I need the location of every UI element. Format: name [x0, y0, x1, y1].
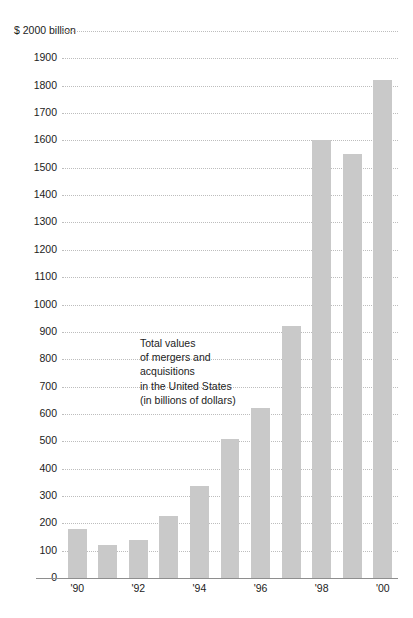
plot-area	[62, 31, 398, 578]
y-axis-tick-label: 700	[39, 381, 57, 392]
bar	[251, 408, 270, 578]
bar	[343, 154, 362, 578]
bar	[190, 486, 209, 578]
x-axis-tick-label: '00	[376, 582, 390, 594]
annotation-line: Total values	[140, 336, 236, 350]
y-axis-tick-label: 1400	[34, 189, 57, 200]
x-axis-line	[36, 578, 398, 579]
y-axis-tick-label: 1100	[34, 271, 57, 282]
annotation-line: in the United States	[140, 379, 236, 393]
bar	[98, 545, 117, 578]
bar	[159, 516, 178, 578]
y-axis-tick-label: 1900	[34, 52, 57, 63]
annotation-line: acquisitions	[140, 364, 236, 378]
bar	[221, 439, 240, 578]
chart-annotation: Total valuesof mergers andacquisitionsin…	[140, 336, 236, 407]
y-axis-tick-label: 300	[39, 490, 57, 501]
bar	[129, 540, 148, 578]
y-axis-tick-label: 1300	[34, 216, 57, 227]
x-axis-tick-label: '98	[315, 582, 329, 594]
y-axis-tick-label: 1700	[34, 107, 57, 118]
y-axis-labels: 0100200300400500600700800900100011001200…	[0, 31, 57, 578]
x-axis-labels: '90'92'94'96'98'00	[62, 582, 398, 602]
y-axis-tick-label: 500	[39, 435, 57, 446]
bars	[62, 31, 398, 578]
y-axis-tick-label: 400	[39, 463, 57, 474]
x-axis-tick-label: '96	[254, 582, 268, 594]
bar	[312, 140, 331, 578]
y-axis-tick-label: 600	[39, 408, 57, 419]
x-axis-tick-label: '92	[132, 582, 146, 594]
y-axis-tick-label: 200	[39, 517, 57, 528]
y-axis-tick-label: 1600	[34, 134, 57, 145]
y-axis-tick-label: 1800	[34, 80, 57, 91]
x-axis-tick-label: '90	[70, 582, 84, 594]
y-axis-tick-label: 900	[39, 326, 57, 337]
y-axis-tick-label: 800	[39, 353, 57, 364]
y-axis-tick-label: 1200	[34, 244, 57, 255]
x-axis-tick-label: '94	[193, 582, 207, 594]
bar	[282, 326, 301, 578]
annotation-line: (in billions of dollars)	[140, 393, 236, 407]
bar	[68, 529, 87, 578]
y-axis-tick-label: 1000	[34, 299, 57, 310]
y-axis-tick-label: 1500	[34, 162, 57, 173]
bar	[373, 80, 392, 578]
annotation-line: of mergers and	[140, 350, 236, 364]
bar-chart: 0100200300400500600700800900100011001200…	[0, 0, 413, 618]
y-axis-tick-label: 100	[39, 545, 57, 556]
